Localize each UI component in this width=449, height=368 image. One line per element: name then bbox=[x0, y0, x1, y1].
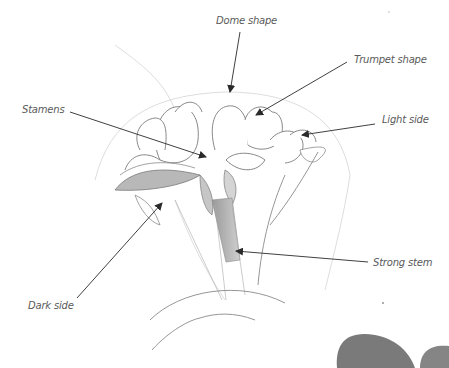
annotated-flower-sketch: Dome shape Trumpet shape Stamens Light s… bbox=[0, 0, 449, 368]
strong-stem-arrow bbox=[236, 251, 368, 262]
label-light-side: Light side bbox=[382, 114, 429, 125]
label-trumpet-shape: Trumpet shape bbox=[354, 54, 427, 65]
dome-shape-arrow bbox=[230, 32, 240, 92]
flower-heads bbox=[125, 102, 316, 170]
label-dome-shape: Dome shape bbox=[216, 15, 277, 26]
label-stamens: Stamens bbox=[22, 104, 64, 115]
label-dark-side: Dark side bbox=[28, 300, 74, 311]
dark-side-arrow bbox=[77, 203, 162, 298]
construction-lines bbox=[95, 45, 350, 300]
annotation-arrows bbox=[70, 32, 375, 298]
label-strong-stem: Strong stem bbox=[373, 257, 432, 268]
light-side-arrow bbox=[302, 124, 375, 135]
pot-outline bbox=[150, 290, 285, 350]
